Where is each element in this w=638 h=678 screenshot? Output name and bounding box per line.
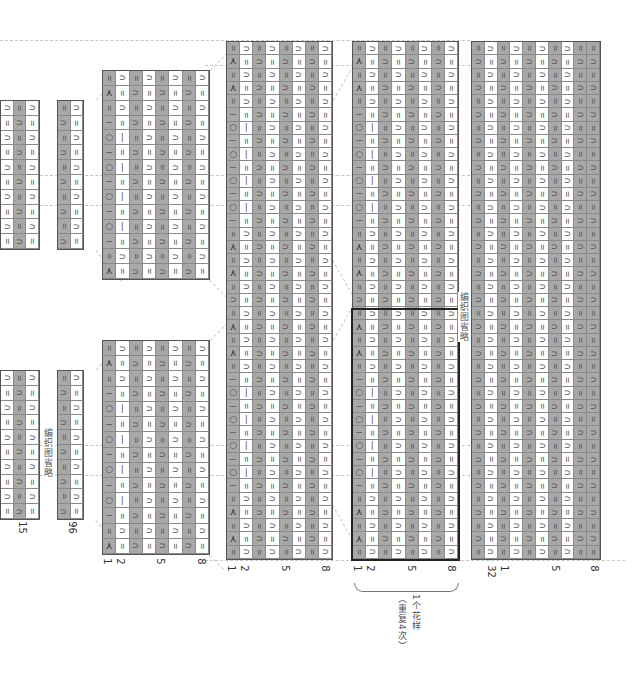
chart-cell: = [445, 214, 458, 227]
chart-cell: = [266, 188, 279, 201]
chart-cell: = [306, 440, 319, 453]
chart-cell: = [130, 249, 143, 264]
chart-cell: ∩ [227, 294, 240, 307]
chart-cell: ∩ [14, 445, 27, 460]
chart-cell: − [227, 453, 240, 466]
chart-cell: ∩ [498, 506, 511, 519]
chart-cell: ∩ [510, 281, 523, 294]
chart-cell: ∩ [293, 519, 306, 532]
chart-cell: ∩ [143, 524, 156, 539]
chart-cell: = [587, 148, 600, 161]
chart-cell: ∩ [130, 86, 143, 101]
chart-cell: ∩ [392, 254, 405, 267]
chart-cell: ∩ [280, 373, 293, 386]
chart-cell: = [523, 360, 536, 373]
chart-cell: = [240, 188, 253, 201]
chart-cell: = [156, 371, 169, 386]
chart-cell: = [536, 241, 549, 254]
chart-cell: = [253, 254, 266, 267]
chart-cell: ∩ [406, 135, 419, 148]
chart-cell: ∩ [379, 55, 392, 68]
chart-cell: = [306, 281, 319, 294]
chart-cell: ∩ [536, 69, 549, 82]
chart-cell: ∩ [574, 532, 587, 545]
chart-cell: = [562, 294, 575, 307]
chart-cell: ∩ [280, 135, 293, 148]
chart-cell: = [498, 440, 511, 453]
chart-cell: = [253, 148, 266, 161]
chart-cell: ∩ [293, 228, 306, 241]
chart-cell: ∩ [353, 294, 366, 307]
chart-cell: = [240, 426, 253, 439]
chart-cell: = [574, 493, 587, 506]
chart-cell: ∩ [319, 201, 332, 214]
chart-cell: ∩ [562, 466, 575, 479]
chart-cell: ∩ [71, 101, 84, 116]
chart-cell: = [71, 415, 84, 430]
chart-cell: = [319, 373, 332, 386]
chart-cell: = [280, 254, 293, 267]
chart-cell: ∩ [306, 373, 319, 386]
chart-cell: = [472, 42, 485, 55]
chart-cell: = [498, 175, 511, 188]
chart-cell: ⋏ [227, 82, 240, 95]
chart-cell: ∩ [306, 214, 319, 227]
chart-cell: ∩ [319, 440, 332, 453]
chart-cell: = [169, 478, 182, 493]
chart-cell: = [574, 228, 587, 241]
chart-cell: = [485, 426, 498, 439]
chart-cell: ∩ [562, 360, 575, 373]
chart-cell: = [549, 493, 562, 506]
chart-cell: = [253, 546, 266, 559]
chart-cell: = [143, 508, 156, 523]
chart-cell: − [353, 161, 366, 174]
chart-cell: ∩ [472, 506, 485, 519]
chart-cell: ∩ [319, 413, 332, 426]
chart-cell: ∩ [196, 249, 209, 264]
chart-cell: ∩ [253, 135, 266, 148]
chart-cell: = [472, 69, 485, 82]
chart-cell: ∩ [485, 228, 498, 241]
chart-cell: ∩ [432, 267, 445, 280]
chart-cell: = [58, 190, 71, 205]
chart-cell: = [240, 453, 253, 466]
chart-cell: | [366, 148, 379, 161]
chart-panel-b-bottom: =∩=∩=∩=∩⋏=∩=∩=∩==∩=∩=∩=∩−=∩=∩=∩=○|=∩=∩=∩… [102, 340, 210, 555]
chart-cell: ∩ [266, 334, 279, 347]
chart-cell: ∩ [306, 479, 319, 492]
chart-cell: ∩ [392, 228, 405, 241]
chart-cell: ∩ [58, 116, 71, 131]
chart-cell: = [485, 506, 498, 519]
chart-cell: ∩ [130, 387, 143, 402]
chart-cell: ∩ [1, 160, 14, 175]
chart-cell: ∩ [419, 201, 432, 214]
chart-cell: = [472, 334, 485, 347]
chart-cell: ∩ [169, 249, 182, 264]
chart-cell: ∩ [485, 254, 498, 267]
chart-cell: = [432, 95, 445, 108]
chart-cell: ∩ [379, 82, 392, 95]
chart-cell: ∩ [498, 294, 511, 307]
chart-cell: = [536, 267, 549, 280]
chart-cell: ∩ [510, 413, 523, 426]
chart-cell: ∩ [196, 190, 209, 205]
chart-cell: ∩ [406, 188, 419, 201]
chart-cell: = [169, 86, 182, 101]
chart-cell: ∩ [266, 440, 279, 453]
chart-cell: = [266, 320, 279, 333]
chart-cell: ∩ [293, 281, 306, 294]
chart-cell: = [485, 320, 498, 333]
chart-cell: ∩ [266, 148, 279, 161]
pattern-repeat-highlight [351, 308, 460, 561]
chart-cell: ∩ [266, 228, 279, 241]
chart-cell: ∩ [445, 69, 458, 82]
chart-cell: ∩ [280, 320, 293, 333]
chart-cell: = [406, 254, 419, 267]
chart-cell: = [485, 294, 498, 307]
chart-cell: ∩ [472, 135, 485, 148]
chart-cell: ∩ [485, 334, 498, 347]
chart-cell: = [536, 400, 549, 413]
chart-cell: = [587, 69, 600, 82]
chart-cell: = [196, 145, 209, 160]
chart-cell: = [366, 294, 379, 307]
